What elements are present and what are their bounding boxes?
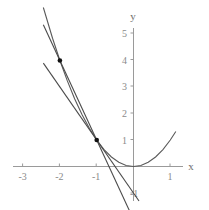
x-tick-label-neg2: -2 — [55, 171, 63, 182]
point-b — [94, 138, 99, 143]
x-axis-label: x — [188, 160, 194, 172]
y-axis-label: y — [130, 10, 136, 22]
x-tick-label-pos1: 1 — [168, 171, 173, 182]
x-tick-label-neg1: -1 — [92, 171, 100, 182]
y-tick-label-5: 5 — [122, 28, 127, 39]
point-a — [58, 58, 63, 63]
y-tick-label-1: 1 — [122, 135, 127, 146]
x-tick-label-neg3: -3 — [18, 171, 26, 182]
y-tick-label-4: 4 — [122, 55, 127, 66]
y-tick-label-3: 3 — [122, 81, 127, 92]
parabola-curve — [43, 8, 175, 167]
y-tick-label-2: 2 — [122, 108, 127, 119]
function-plot: y x -3 -2 -1 1 5 4 3 2 1 -1 — [0, 0, 209, 210]
